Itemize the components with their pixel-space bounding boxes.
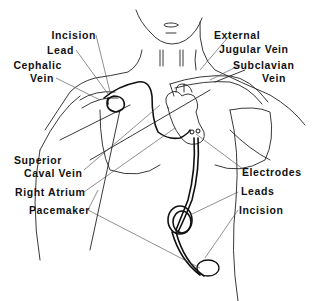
- label-external-jugular-2: Jugular Vein: [219, 44, 289, 55]
- pacemaker-diagram: Incision Lead Cephalic Vein External Jug…: [0, 0, 314, 301]
- label-electrodes: Electrodes: [242, 167, 302, 178]
- label-incision-bottom: Incision: [239, 205, 283, 216]
- upper-lead-loop: [107, 96, 124, 112]
- label-external-jugular-1: External: [214, 30, 260, 41]
- electrode: [190, 130, 194, 134]
- electrode: [196, 129, 200, 133]
- label-lead: Lead: [30, 45, 74, 56]
- label-superior-caval-2: Caval Vein: [24, 168, 83, 179]
- upper-lead: [104, 82, 190, 139]
- label-subclavian-1: Subclavian: [233, 60, 294, 71]
- label-subclavian-2: Vein: [262, 73, 286, 84]
- heart: [166, 92, 205, 145]
- label-pacemaker: Pacemaker: [29, 205, 90, 216]
- mouth: [164, 23, 178, 27]
- label-incision-top: Incision: [40, 30, 96, 41]
- chin-outline: [150, 18, 202, 44]
- label-leads: Leads: [241, 186, 274, 197]
- pacemaker-generator: [197, 260, 219, 276]
- label-cephalic-vein-2: Vein: [10, 73, 54, 84]
- label-superior-caval-1: Superior: [14, 155, 62, 166]
- label-right-atrium: Right Atrium: [15, 187, 85, 198]
- label-cephalic-vein-1: Cephalic: [10, 60, 62, 71]
